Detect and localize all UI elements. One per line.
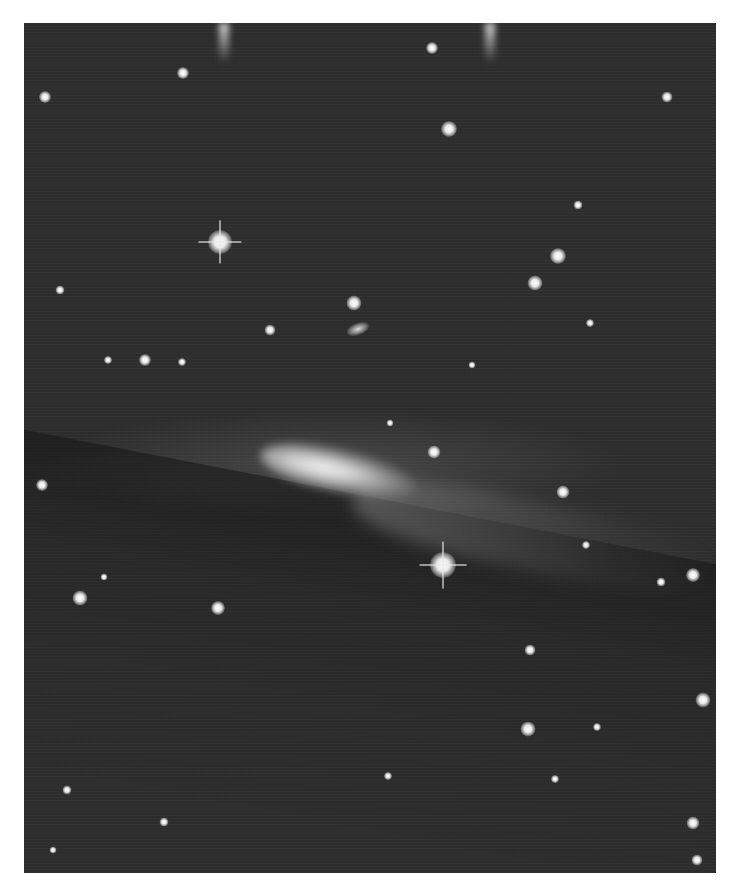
star	[211, 601, 225, 615]
star	[687, 817, 700, 830]
star	[430, 552, 456, 578]
star	[101, 574, 108, 581]
star	[696, 693, 711, 708]
star	[551, 775, 559, 783]
star	[50, 847, 57, 854]
star	[550, 248, 566, 264]
comet-photograph	[24, 23, 716, 873]
star	[56, 286, 65, 295]
star	[469, 362, 476, 369]
star	[441, 121, 457, 137]
star	[657, 578, 666, 587]
star	[73, 591, 88, 606]
star	[593, 723, 601, 731]
star	[104, 356, 112, 364]
star	[208, 230, 232, 254]
star	[686, 568, 700, 582]
star	[347, 296, 362, 311]
star	[139, 354, 151, 366]
star	[178, 358, 186, 366]
star	[582, 541, 590, 549]
star	[160, 818, 169, 827]
star	[557, 486, 570, 499]
star	[586, 319, 594, 327]
star	[387, 420, 394, 427]
star	[36, 479, 48, 491]
star	[662, 92, 673, 103]
star	[574, 201, 583, 210]
star	[63, 786, 72, 795]
star	[426, 42, 438, 54]
star	[528, 276, 543, 291]
star	[265, 325, 276, 336]
star	[384, 772, 392, 780]
star	[521, 722, 536, 737]
star	[428, 446, 441, 459]
star	[692, 855, 703, 866]
light-streak	[485, 23, 495, 63]
star	[177, 67, 189, 79]
star	[39, 91, 51, 103]
light-streak	[219, 23, 229, 63]
star	[525, 645, 536, 656]
